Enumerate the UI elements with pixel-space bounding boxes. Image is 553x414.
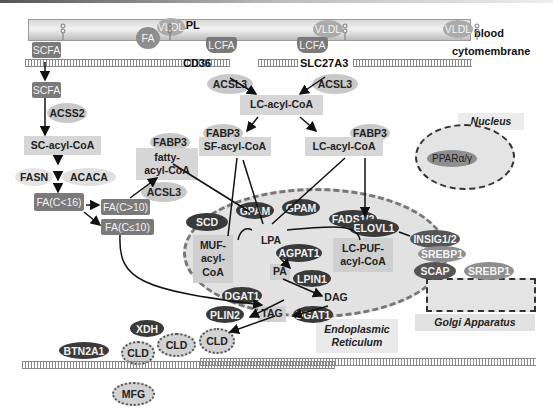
pathway-arrows <box>0 0 553 414</box>
